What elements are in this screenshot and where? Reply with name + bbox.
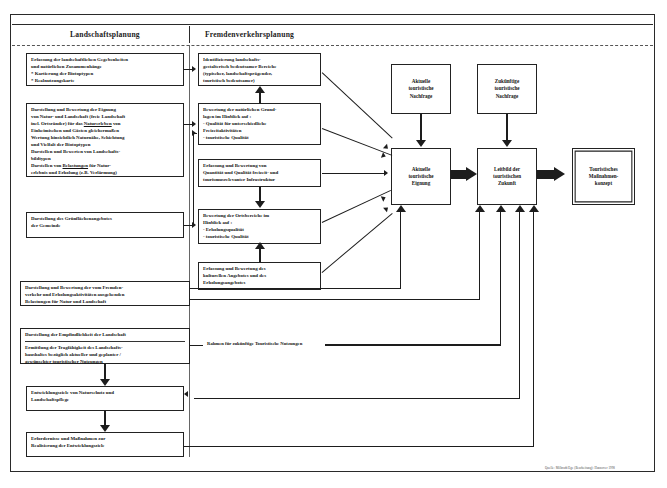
box-line: Landschaftspflege xyxy=(31,397,179,404)
box-erfassung-gegebenheiten: Erfassung der landschaftlichen Gegebenhe… xyxy=(26,53,184,86)
box-bewertung-ortsbereiche: Bewertung der Ortsbereiche im Hinblick a… xyxy=(198,209,321,244)
connector-riser-left xyxy=(193,133,194,225)
box-line: Bewertung der natürlichen Grund- xyxy=(203,107,316,114)
box-line: lagen im Hinblick auf : xyxy=(203,114,316,121)
box-line: erlebnis und Erholung (z.B. Verlärmung) xyxy=(31,170,179,177)
box-line: Darstellung der Empfindlichkeit der Land… xyxy=(25,332,185,339)
box-eignung-natur-landschaft: Darstellung und Bewertung der Eignung vo… xyxy=(26,103,184,177)
box-line: * Kartierung der Biotoptypen xyxy=(31,71,179,78)
box-line: kulturellen Angebotes und des xyxy=(203,273,316,280)
arrowhead-up xyxy=(529,205,539,212)
box-bewertung-natuerliche-grundlagen: Bewertung der natürlichen Grund- lagen i… xyxy=(198,103,321,145)
box-infrastruktur: Erfassung und Bewertung von Quantität un… xyxy=(198,159,321,187)
box-line: touristischen xyxy=(493,173,521,180)
box-inner-divider xyxy=(25,341,185,342)
connector-r1-r3 xyxy=(420,114,422,140)
connector-m3-r3 xyxy=(322,173,385,174)
connector-l4-right-a xyxy=(190,288,401,289)
box-line: Erholungsangebotes xyxy=(203,280,316,287)
box-massnahmenkonzept: Touristisches Maßnahmen- konzept xyxy=(572,148,635,205)
source-credit: Quelle: Milbradt/Ege (Bearbeitung): Hann… xyxy=(545,466,615,470)
box-line: Darstellung des Grünflächenangebotes xyxy=(31,216,179,223)
arrowhead-right xyxy=(384,170,388,176)
arrowhead-right xyxy=(192,222,196,228)
connector-l7-right xyxy=(184,446,534,447)
box-empfindlichkeit-tragfaehigkeit: Darstellung der Empfindlichkeit der Land… xyxy=(20,328,190,364)
arrowhead-up xyxy=(475,205,485,212)
box-line: * Realnutzungskarte xyxy=(31,78,179,85)
box-line-naturerleben: incl. Ortsränder) für das Naturerleben v… xyxy=(31,121,179,128)
box-line: Nachfrage xyxy=(410,93,433,100)
arrowhead-down xyxy=(502,140,512,147)
arrowhead-up xyxy=(515,205,525,212)
box-line: Darstellung und Bewertung der vom Fremde… xyxy=(25,285,185,292)
box-line: von Natur- und Landschaft (freie Landsch… xyxy=(31,114,179,121)
arrowhead-right xyxy=(192,121,196,127)
connector-l4-riser-b xyxy=(479,212,480,300)
box-line: Darstellen und Bewerten von Landschafts- xyxy=(31,149,179,156)
arrowhead-down xyxy=(255,201,265,208)
connector-feedback-riser xyxy=(519,212,520,399)
box-line: Zukünftige xyxy=(495,78,519,85)
box-line: Aktuelle xyxy=(412,166,430,173)
box-line: Eignung xyxy=(412,180,430,187)
box-line: gestalterisch bedeutsamer Bereiche xyxy=(203,64,316,71)
box-line: Bewertung der Ortsbereiche im xyxy=(203,213,316,220)
arrowhead-right-large xyxy=(466,167,477,181)
box-line: touristische xyxy=(408,173,433,180)
arrowhead-up xyxy=(255,242,265,249)
box-line: Nachfrage xyxy=(496,93,519,100)
box-entwicklungsziele: Entwicklungsziele von Naturschutz und La… xyxy=(26,386,184,411)
arrowhead-down xyxy=(100,379,110,386)
box-aktuelle-nachfrage: Aktuelle touristische Nachfrage xyxy=(391,64,451,114)
box-line: Darstellung und Bewertung der Eignung xyxy=(31,107,179,114)
box-line: Realisierung der Entwicklungsziele xyxy=(31,443,179,450)
arrowhead-down xyxy=(100,425,110,432)
arrowhead-up xyxy=(255,86,265,93)
arrowhead-up xyxy=(496,205,506,212)
box-line: (typischer, landschaftsprägender, xyxy=(203,71,316,78)
connector-r2-r4 xyxy=(506,114,508,140)
box-line: Erfordernisse und Maßnahmen zur xyxy=(31,436,179,443)
box-line: touristische xyxy=(494,85,519,92)
box-line: Belastungen für Natur und Landschaft xyxy=(25,299,185,306)
connector-m2-m1 xyxy=(259,92,261,104)
box-line: Quantität und Qualität freizeit- und xyxy=(203,170,316,177)
box-line: und natürlichen Zusammenhänge xyxy=(31,64,179,71)
box-line: und Vielfalt der Biotoptypen xyxy=(31,142,179,149)
arrowhead-right xyxy=(192,130,196,136)
column-heading-fremdenverkehrsplanung: Fremdenverkehrsplanung xyxy=(205,30,294,39)
diagram-canvas: Landschaftsplanung Fremdenverkehrsplanun… xyxy=(0,0,667,488)
connector-l4-right-b xyxy=(190,299,480,300)
header-column-divider xyxy=(189,26,190,43)
dashed-separator xyxy=(12,45,653,46)
box-line: - Erholungsqualität xyxy=(203,227,316,234)
box-erfordernisse-massnahmen: Erfordernisse und Maßnahmen zur Realisie… xyxy=(26,432,184,457)
header-rule xyxy=(12,24,653,25)
box-line: haushaltes bezüglich aktueller und gepla… xyxy=(25,352,185,359)
box-line: Entwicklungsziele von Naturschutz und xyxy=(31,390,179,397)
box-line: Maßnahmen- xyxy=(589,173,618,180)
box-line: Ermittlung der Tragfähigkeit des Landsch… xyxy=(25,345,185,352)
box-line: tourismusrelevanter Infrastruktur xyxy=(203,177,316,184)
box-line: Zukunft xyxy=(498,180,516,187)
box-line: Erfassung und Bewertung von xyxy=(203,163,316,170)
box-kulturelles-angebot: Erfassung und Bewertung des kulturellen … xyxy=(198,262,321,290)
box-line: - Qualität für unterschiedliche xyxy=(203,121,316,128)
column-heading-landschaftsplanung: Landschaftsplanung xyxy=(70,30,140,39)
box-line-belastungen: Darstellen von Belastungen für Natur- xyxy=(31,163,179,170)
connector-l7-riser xyxy=(533,212,534,446)
box-line: touristisch bedeutsamer) xyxy=(203,78,316,85)
box-zukuenftige-nachfrage: Zukünftige touristische Nachfrage xyxy=(477,64,537,114)
connector-rahmen-main xyxy=(325,344,501,346)
box-belastungen-fremdenverkehr: Darstellung und Bewertung der vom Fremde… xyxy=(20,281,190,306)
box-line: - touristische Qualität xyxy=(203,135,316,142)
connector-l4-riser-a xyxy=(400,212,401,289)
box-line: Freizeitaktivitäten xyxy=(203,128,316,135)
connector-l5-l6 xyxy=(104,364,106,379)
connector-r3-r4 xyxy=(451,170,467,179)
annotation-rahmen: Rahmen für zukünftige Touristische Nutzu… xyxy=(207,341,302,346)
box-line: - touristische Qualität xyxy=(203,234,316,241)
box-line: Erfassung und Bewertung des xyxy=(203,266,316,273)
connector-m3-m4 xyxy=(259,187,261,201)
